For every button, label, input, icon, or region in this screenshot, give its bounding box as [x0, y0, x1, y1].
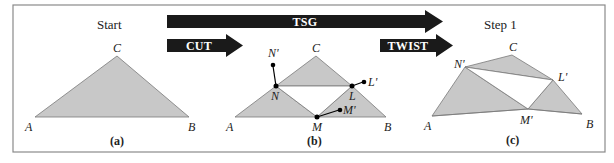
label-a-B: B [188, 120, 196, 134]
label-c-C: C [509, 40, 518, 54]
step1-heading: Step 1 [484, 17, 517, 32]
start-heading: Start [97, 17, 122, 32]
point-N-prime [271, 63, 276, 68]
panel-b: C N' N L L' M' A M B (b) [225, 41, 392, 148]
tsg-diagram: Start Step 1 TSG CUT TWIST C A B (a) [0, 0, 614, 163]
panel-a: C A B (a) [24, 41, 196, 148]
label-c-A: A [423, 119, 432, 133]
caption-b: (b) [307, 134, 322, 148]
panel-c: C N' L' M' A B (c) [423, 40, 594, 147]
caption-c: (c) [506, 133, 519, 147]
label-a-C: C [113, 41, 122, 55]
cut-arrow: CUT [167, 34, 243, 57]
twist-arrow-label: TWIST [388, 39, 429, 53]
label-b-B: B [384, 120, 392, 134]
tsg-arrow: TSG [167, 10, 443, 33]
vector-N-Nprime [273, 66, 276, 86]
label-b-Nprime: N' [267, 46, 279, 60]
point-N [274, 84, 279, 89]
tsg-arrow-label: TSG [293, 15, 318, 29]
point-M-prime [338, 108, 343, 113]
caption-a: (a) [110, 134, 124, 148]
triangle-NCL [276, 56, 352, 86]
triangle-abc [35, 56, 189, 117]
point-M [315, 115, 320, 120]
point-L-prime [362, 80, 367, 85]
label-b-Lprime: L' [367, 75, 378, 89]
label-b-Mprime: M' [342, 103, 356, 117]
label-b-M: M [311, 120, 323, 134]
twist-arrow: TWIST [380, 34, 453, 57]
label-c-Mprime: M' [519, 113, 533, 127]
label-c-Lprime: L' [557, 70, 568, 84]
label-b-N: N [270, 89, 280, 103]
label-b-C: C [312, 41, 321, 55]
label-a-A: A [24, 120, 33, 134]
cut-arrow-label: CUT [186, 39, 212, 53]
label-c-B: B [586, 117, 594, 131]
label-b-L: L [348, 89, 356, 103]
label-c-Nprime: N' [453, 57, 465, 71]
point-L [350, 84, 355, 89]
label-b-A: A [225, 120, 234, 134]
